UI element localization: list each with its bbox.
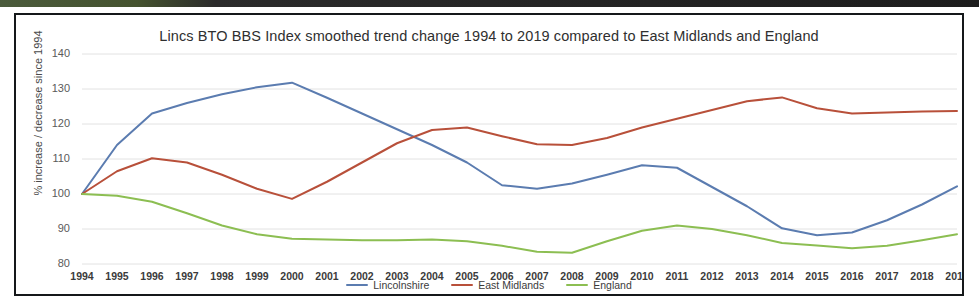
chart-container: Lincs BTO BBS Index smoothed trend chang… — [14, 13, 964, 296]
legend-label: Lincolnshire — [373, 279, 429, 291]
page-edge-strip — [0, 0, 979, 7]
chart-legend: LincolnshireEast MidlandsEngland — [16, 279, 962, 291]
plot-area — [16, 15, 962, 294]
legend-item-lincolnshire[interactable]: Lincolnshire — [346, 279, 429, 291]
legend-item-england[interactable]: England — [566, 279, 632, 291]
legend-swatch-icon — [346, 284, 368, 287]
series-lines — [82, 83, 957, 253]
page-edge-gap — [0, 7, 979, 10]
legend-label: England — [593, 279, 632, 291]
legend-swatch-icon — [566, 284, 588, 287]
series-line-east-midlands — [82, 97, 957, 198]
series-line-england — [82, 194, 957, 253]
legend-label: East Midlands — [478, 279, 544, 291]
gridlines — [82, 54, 957, 264]
legend-item-east-midlands[interactable]: East Midlands — [451, 279, 544, 291]
legend-swatch-icon — [451, 284, 473, 287]
page-root: Lincs BTO BBS Index smoothed trend chang… — [0, 0, 979, 302]
